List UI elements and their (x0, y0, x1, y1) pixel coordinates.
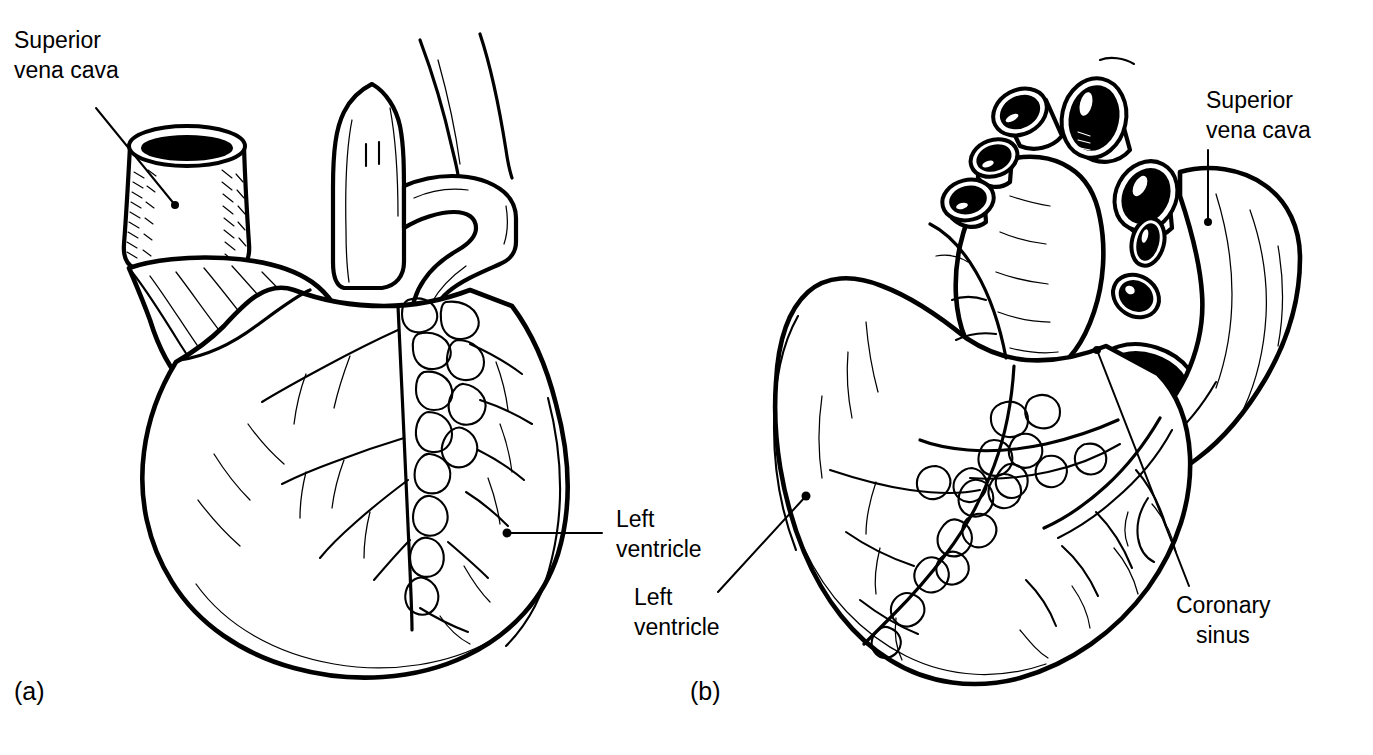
lv-a-leader-dot (503, 529, 512, 538)
cs-label-line2: sinus (1196, 622, 1250, 648)
lv-a-label-line2: ventricle (616, 536, 702, 562)
lv-b-leader-dot (802, 492, 811, 501)
lv-a-label-line1: Left (616, 506, 655, 532)
svc-a-label-line1: Superior (14, 27, 101, 53)
svc-a-label-line2: vena cava (14, 57, 119, 83)
figure-root: Superior vena cava Left ventricle (a) (0, 0, 1373, 755)
superior-vena-cava-a (124, 126, 249, 268)
svc-b-leader-dot (1204, 218, 1212, 226)
svc-b-label-line1: Superior (1206, 87, 1293, 113)
lv-b-label-line1: Left (634, 584, 673, 610)
lv-b-label-line2: ventricle (634, 614, 720, 640)
cs-leader-dot (1093, 346, 1101, 354)
svc-a-leader-dot (171, 201, 179, 209)
panel-letter-b: (b) (690, 677, 721, 705)
heart-body-anterior (142, 288, 567, 678)
ascending-aorta (333, 84, 404, 288)
panel-letter-a: (a) (14, 677, 45, 705)
svc-b-label-line2: vena cava (1206, 117, 1311, 143)
cs-label-line1: Coronary (1176, 592, 1271, 618)
svc-lumen (142, 136, 232, 160)
heart-anatomy-figure: Superior vena cava Left ventricle (a) (0, 0, 1373, 755)
